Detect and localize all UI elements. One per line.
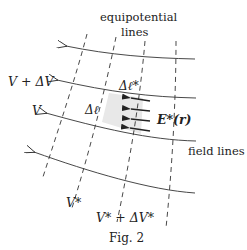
v-star-label: V* bbox=[66, 195, 82, 210]
v-plus-dv-label: V + ΔV bbox=[8, 74, 55, 89]
figure-caption: Fig. 2 bbox=[109, 231, 144, 245]
delta-l-star-label: Δℓ* bbox=[118, 79, 139, 93]
equipotential-line-4 bbox=[166, 41, 176, 228]
equipotential-label-line2: lines bbox=[121, 25, 149, 39]
field-lines-diagram: equipotential lines V + ΔV V Δℓ* Δℓ E*(r… bbox=[0, 0, 247, 250]
e-star-r-label: E*(r) bbox=[156, 112, 192, 127]
field-lines-label: field lines bbox=[188, 144, 245, 158]
equipotential-label-line1: equipotential bbox=[100, 10, 178, 24]
equipotential-lines bbox=[42, 34, 176, 228]
equipotential-line-1 bbox=[42, 34, 87, 180]
delta-l-label: Δℓ bbox=[84, 103, 99, 117]
v-star-plus-dv-star-label: V* + ΔV* bbox=[96, 210, 155, 225]
field-line-4 bbox=[34, 152, 195, 193]
v-label: V bbox=[32, 103, 43, 118]
